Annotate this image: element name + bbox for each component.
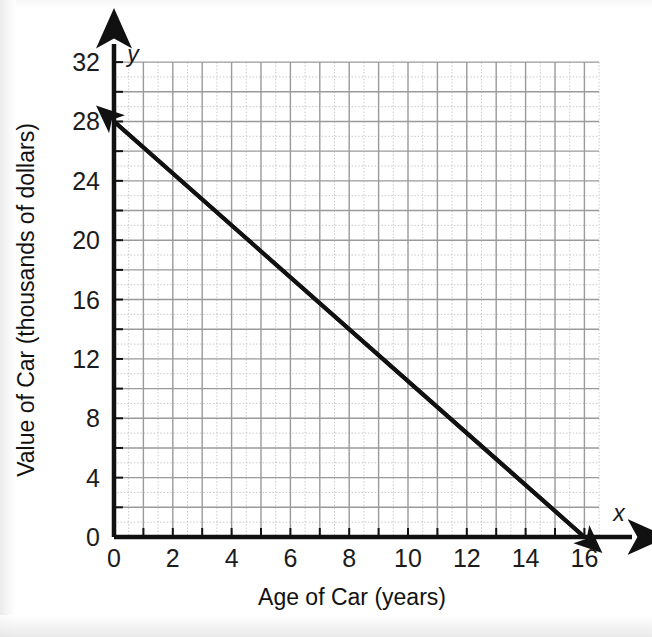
- x-tick-label: 6: [283, 544, 297, 572]
- x-tick-label: 4: [225, 544, 239, 572]
- chart-page: 0246810121416 048121620242832 x y Age of…: [0, 0, 652, 637]
- x-tick-label: 2: [166, 544, 180, 572]
- y-tick-label: 24: [72, 167, 100, 195]
- y-tick-label: 0: [86, 523, 100, 551]
- y-tick-label: 28: [72, 107, 100, 135]
- x-axis-symbol: x: [612, 500, 626, 526]
- y-tick-label: 32: [72, 48, 100, 76]
- y-tick-label: 4: [86, 464, 100, 492]
- y-tick-label: 12: [72, 345, 100, 373]
- y-tick-label: 20: [72, 226, 100, 254]
- grid-major-lines: [114, 62, 599, 537]
- x-tick-label: 0: [107, 544, 121, 572]
- x-tick-label: 16: [570, 544, 598, 572]
- y-tick-label: 8: [86, 404, 100, 432]
- x-tick-label: 10: [394, 544, 422, 572]
- line-graph: 0246810121416 048121620242832 x y Age of…: [0, 0, 652, 637]
- x-axis-title: Age of Car (years): [258, 584, 446, 610]
- x-axis-tick-labels: 0246810121416: [107, 544, 598, 572]
- y-tick-label: 16: [72, 286, 100, 314]
- x-tick-label: 14: [512, 544, 540, 572]
- x-tick-label: 12: [453, 544, 481, 572]
- y-axis-tick-labels: 048121620242832: [72, 48, 100, 551]
- y-axis-title: Value of Car (thousands of dollars): [13, 123, 39, 477]
- x-tick-label: 8: [342, 544, 356, 572]
- y-axis-symbol: y: [125, 41, 140, 67]
